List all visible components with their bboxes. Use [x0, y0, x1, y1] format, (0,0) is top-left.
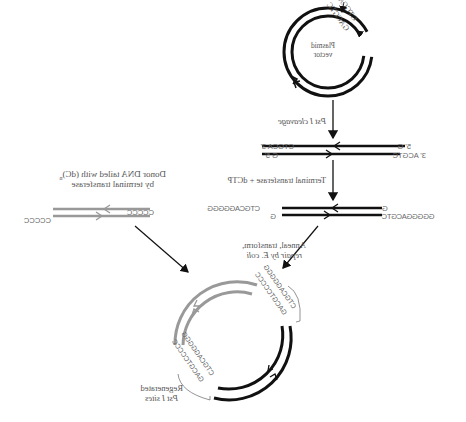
plasmid-vector: Plasmid vector CTGCAG GACGTC [284, 0, 372, 96]
tailed-right-bottom: GGGGGACGTC [381, 212, 434, 221]
recombinant-plasmid: CTGCAGGGGG GACGTCCCCC CTGCAGGGGG GACGTCC… [140, 263, 300, 403]
step-tailing-label: Terminal transferase + dCTP [227, 175, 326, 185]
donor-label-2: by terminal transferase [72, 179, 154, 189]
cut-left-bottom: G 5' [264, 151, 278, 160]
anneal-label-1: Anneal, transform, [242, 240, 306, 250]
regenerated-label-2: Pst I sites [144, 393, 179, 403]
cut-right-bottom: 3' ACGTC [392, 151, 426, 160]
tailed-vector: CTGCAGGGGG G G GGGGGACGTC [207, 204, 434, 221]
tailed-left-bottom: G [270, 212, 276, 221]
plasmid-label-2: vector [313, 50, 332, 59]
regenerated-label-1: Regenerated [140, 383, 183, 393]
donor-dna: Donor DNA tailed with (dC)n by terminal … [23, 169, 166, 225]
cut-left-top: CTGCA 3' [260, 142, 294, 151]
converge-arrow-left-icon [135, 226, 188, 272]
diagram-canvas: Plasmid vector CTGCAG GACGTC Pst I cleav… [0, 0, 466, 422]
cloning-diagram: Plasmid vector CTGCAG GACGTC Pst I cleav… [0, 0, 466, 422]
cut-vector: CTGCA 3' G 5' 5' G 3' ACGTC [260, 142, 426, 160]
donor-left-tail: CCCCC [23, 216, 51, 225]
cut-right-top: 5' G [397, 142, 411, 151]
plasmid-label-1: Plasmid [311, 41, 335, 50]
anneal-label-2: repair by E. coli [246, 250, 302, 260]
tailed-left-top: CTGCAGGGGG [207, 204, 260, 213]
step-cleavage-label: Pst I cleavage [278, 116, 327, 126]
strand-arrow-icon [194, 300, 200, 306]
